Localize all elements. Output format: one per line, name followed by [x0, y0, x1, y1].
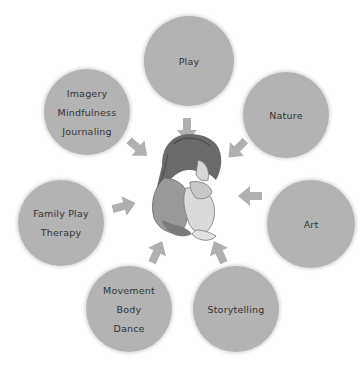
node-art-label: Art	[304, 215, 319, 234]
node-storytelling-label: Storytelling	[207, 300, 264, 319]
node-movement-line2: Body	[117, 300, 142, 319]
node-play-label: Play	[179, 52, 200, 71]
arrow-art-icon	[238, 186, 262, 206]
arrow-family-icon	[110, 193, 138, 219]
node-imagery-line1: Imagery	[67, 84, 108, 103]
node-art: Art	[267, 180, 355, 268]
node-imagery-line3: Journaling	[62, 122, 112, 141]
node-nature: Nature	[243, 72, 329, 158]
node-imagery-line2: Mindfulness	[58, 103, 117, 122]
node-movement-line3: Dance	[113, 319, 144, 338]
node-family-line2: Therapy	[41, 223, 81, 242]
crouching-child-icon	[140, 130, 232, 248]
node-family-play-therapy: Family Play Therapy	[18, 180, 104, 266]
node-storytelling: Storytelling	[193, 266, 279, 352]
node-imagery: Imagery Mindfulness Journaling	[44, 69, 130, 155]
node-nature-label: Nature	[269, 106, 302, 125]
node-movement: Movement Body Dance	[86, 266, 172, 352]
node-family-line1: Family Play	[33, 204, 89, 223]
node-play: Play	[144, 16, 234, 106]
node-movement-line1: Movement	[103, 281, 155, 300]
